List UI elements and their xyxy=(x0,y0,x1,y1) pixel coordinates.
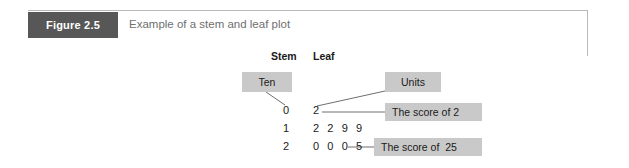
column-header-leaf: Leaf xyxy=(313,50,335,62)
callout-ten: Ten xyxy=(242,72,292,92)
callout-score-of-2: The score of 2 xyxy=(385,103,482,121)
figure-number-label: Figure 2.5 xyxy=(28,12,118,38)
leaf-digits: 2 2 9 9 xyxy=(313,122,365,134)
stem-digit: 2 xyxy=(283,140,289,152)
figure-caption: Example of a stem and leaf plot xyxy=(129,18,290,30)
callout-units: Units xyxy=(385,72,441,92)
stem-digit: 0 xyxy=(283,104,289,116)
leaf-digits: 2 xyxy=(313,104,322,116)
stem-digit: 1 xyxy=(283,122,289,134)
connector-units-to-leaf xyxy=(317,91,385,106)
callout-score-of-25: The score of 25 xyxy=(374,138,482,156)
leaf-digits: 0 0 0 5 xyxy=(313,140,365,152)
column-header-stem: Stem xyxy=(271,50,297,62)
